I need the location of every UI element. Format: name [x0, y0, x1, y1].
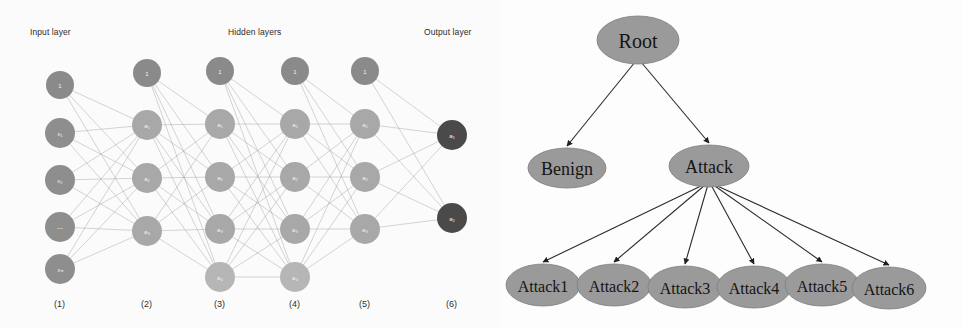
- network-node-hidden-layer-4-3: a₂: [350, 162, 380, 192]
- node-label: a₂: [362, 175, 368, 181]
- node-label: a₁: [144, 123, 149, 129]
- tree-node-label: Attack6: [864, 281, 915, 298]
- tree-node-label: Attack: [685, 157, 733, 177]
- network-edge: [295, 71, 365, 229]
- node-label: a₂: [449, 216, 455, 222]
- network-node-input-layer-5: xₙ: [45, 254, 75, 284]
- tree-edge-root-to-attack: [639, 60, 709, 143]
- tree-node-label: Attack1: [518, 278, 569, 295]
- tree-node-label: Root: [619, 30, 658, 52]
- tree-edge-attack-to-attack4: [710, 183, 754, 264]
- node-label: a₁: [449, 133, 454, 139]
- node-label: a₄: [217, 275, 223, 281]
- layer-index-label-5: (5): [359, 299, 370, 309]
- attack-taxonomy-diagram: RootBenignAttackAttack1Attack2Attack3Att…: [500, 0, 962, 328]
- network-node-hidden-layer-2-5: a₄: [205, 262, 235, 292]
- output-layer-header: Output layer: [424, 27, 472, 37]
- tree-edge-attack-to-attack6: [711, 183, 889, 265]
- tree-edge-root-to-benign: [567, 60, 637, 146]
- tree-node-label: Benign: [541, 159, 593, 179]
- node-label: a₂: [217, 175, 223, 181]
- network-edges-group: [60, 71, 452, 277]
- network-node-hidden-layer-3-3: a₂: [280, 162, 310, 192]
- network-node-input-layer-2: x₁: [45, 118, 75, 148]
- input-layer-header: Input layer: [30, 27, 71, 37]
- tree-edge-attack-to-attack1: [543, 183, 707, 262]
- tree-node-attack5[interactable]: Attack5: [785, 264, 859, 306]
- network-node-output-layer-2: a₂: [437, 203, 467, 233]
- network-node-input-layer-4: ⋯: [45, 212, 75, 242]
- network-node-hidden-layer-4-2: a₁: [350, 109, 380, 139]
- tree-node-attack4[interactable]: Attack4: [717, 266, 791, 308]
- tree-node-label: Attack4: [729, 280, 780, 297]
- attack-taxonomy-panel: RootBenignAttackAttack1Attack2Attack3Att…: [500, 0, 962, 328]
- network-edge: [220, 71, 295, 229]
- network-node-hidden-layer-3-4: a₃: [280, 214, 310, 244]
- tree-node-attack6[interactable]: Attack6: [852, 267, 926, 309]
- tree-node-attack2[interactable]: Attack2: [577, 264, 651, 306]
- node-label: a₁: [292, 122, 297, 128]
- network-node-hidden-layer-3-1: 1: [281, 57, 309, 85]
- tree-node-root[interactable]: Root: [597, 16, 679, 64]
- tree-nodes-group: RootBenignAttackAttack1Attack2Attack3Att…: [506, 16, 926, 309]
- tree-node-benign[interactable]: Benign: [528, 148, 606, 188]
- node-label: a₃: [217, 227, 223, 233]
- node-label: a₃: [144, 229, 150, 235]
- layer-index-label-6: (6): [446, 299, 457, 309]
- node-label: ⋯: [57, 225, 63, 231]
- network-node-hidden-layer-3-5: a₄: [280, 262, 310, 292]
- network-node-hidden-layer-2-2: a₁: [205, 109, 235, 139]
- tree-edge-attack-to-attack3: [685, 183, 708, 264]
- network-node-hidden-layer-2-3: a₂: [205, 162, 235, 192]
- network-node-hidden-layer-1-3: a₂: [132, 163, 162, 193]
- network-node-output-layer-1: a₁: [437, 120, 467, 150]
- network-edge: [295, 124, 365, 277]
- network-edge: [365, 71, 452, 218]
- tree-node-attack[interactable]: Attack: [669, 145, 749, 187]
- layer-index-label-3: (3): [214, 299, 225, 309]
- network-node-input-layer-1: 1: [46, 71, 74, 99]
- node-label: a₄: [292, 275, 298, 281]
- tree-node-label: Attack2: [589, 278, 640, 295]
- layer-index-label-2: (2): [141, 299, 152, 309]
- network-node-hidden-layer-4-1: 1: [351, 57, 379, 85]
- node-label: a₁: [362, 122, 367, 128]
- neural-network-panel: 1x₁x₂⋯xₙ1a₁a₂a₃1a₁a₂a₃a₄1a₁a₂a₃a₄1a₁a₂a₃…: [0, 0, 500, 328]
- tree-node-attack3[interactable]: Attack3: [648, 266, 722, 308]
- figure-canvas: 1x₁x₂⋯xₙ1a₁a₂a₃1a₁a₂a₃a₄1a₁a₂a₃a₄1a₁a₂a₃…: [0, 0, 962, 328]
- network-node-hidden-layer-4-4: a₃: [350, 214, 380, 244]
- network-node-hidden-layer-2-4: a₃: [205, 214, 235, 244]
- network-edge: [60, 85, 147, 231]
- neural-network-diagram: 1x₁x₂⋯xₙ1a₁a₂a₃1a₁a₂a₃a₄1a₁a₂a₃a₄1a₁a₂a₃…: [0, 0, 500, 328]
- layer-index-label-1: (1): [54, 299, 65, 309]
- node-label: x₁: [57, 131, 62, 137]
- network-node-hidden-layer-1-1: 1: [133, 59, 161, 87]
- network-node-input-layer-3: x₂: [45, 165, 75, 195]
- node-label: x₂: [57, 178, 63, 184]
- tree-edge-attack-to-attack2: [614, 183, 707, 262]
- network-node-hidden-layer-3-2: a₁: [280, 109, 310, 139]
- node-label: a₂: [292, 175, 298, 181]
- tree-node-label: Attack3: [660, 280, 711, 297]
- network-node-hidden-layer-1-2: a₁: [132, 110, 162, 140]
- tree-edge-attack-to-attack5: [711, 183, 822, 262]
- network-node-hidden-layer-1-4: a₃: [132, 216, 162, 246]
- node-label: a₃: [362, 227, 368, 233]
- node-label: a₂: [144, 176, 150, 182]
- hidden-layers-header: Hidden layers: [228, 27, 281, 37]
- layer-index-label-4: (4): [289, 299, 300, 309]
- tree-node-attack1[interactable]: Attack1: [506, 264, 580, 306]
- network-edge: [60, 125, 147, 269]
- network-node-hidden-layer-2-1: 1: [206, 57, 234, 85]
- node-label: a₃: [292, 227, 298, 233]
- node-label: a₁: [217, 122, 222, 128]
- tree-node-label: Attack5: [797, 278, 848, 295]
